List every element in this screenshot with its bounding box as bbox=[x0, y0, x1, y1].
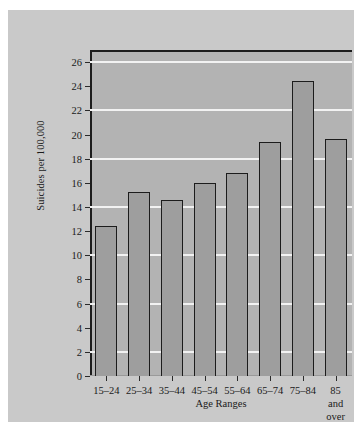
y-tick-mark bbox=[85, 62, 90, 63]
y-tick-label: 0 bbox=[60, 371, 82, 382]
bar bbox=[161, 200, 183, 376]
y-axis-spine bbox=[90, 50, 92, 376]
y-tick-label: 24 bbox=[60, 81, 82, 92]
x-tick-mark bbox=[237, 376, 238, 381]
x-tick-mark bbox=[106, 376, 107, 381]
y-tick-mark bbox=[85, 352, 90, 353]
y-tick-mark bbox=[85, 279, 90, 280]
y-tick-label: 6 bbox=[60, 298, 82, 309]
y-tick-label: 12 bbox=[60, 226, 82, 237]
y-tick-mark bbox=[85, 207, 90, 208]
y-tick-label: 8 bbox=[60, 274, 82, 285]
x-tick-label: 35–44 bbox=[159, 384, 185, 397]
x-tick-mark bbox=[270, 376, 271, 381]
y-tick-label: 16 bbox=[60, 177, 82, 188]
x-tick-mark bbox=[205, 376, 206, 381]
x-tick-label: 45–54 bbox=[192, 384, 218, 397]
bar bbox=[292, 81, 314, 376]
x-tick-label: 65–74 bbox=[257, 384, 283, 397]
x-tick-mark bbox=[139, 376, 140, 381]
y-tick-mark bbox=[85, 304, 90, 305]
y-tick-mark bbox=[85, 255, 90, 256]
y-tick-mark bbox=[85, 183, 90, 184]
figure-background: Suicides per 100,000 0246810121416182022… bbox=[8, 10, 354, 422]
y-axis-title: Suicides per 100,000 bbox=[35, 86, 46, 246]
y-tick-mark bbox=[85, 328, 90, 329]
y-tick-mark bbox=[85, 135, 90, 136]
y-tick-label: 10 bbox=[60, 250, 82, 261]
y-tick-mark bbox=[85, 159, 90, 160]
y-tick-mark bbox=[85, 86, 90, 87]
gridline bbox=[90, 61, 352, 63]
bar bbox=[194, 183, 216, 376]
y-tick-label: 18 bbox=[60, 153, 82, 164]
x-tick-mark bbox=[336, 376, 337, 381]
y-tick-label: 4 bbox=[60, 322, 82, 333]
x-tick-label: 75–84 bbox=[290, 384, 316, 397]
x-tick-mark bbox=[172, 376, 173, 381]
bar bbox=[95, 226, 117, 376]
x-axis-title: Age Ranges bbox=[90, 398, 352, 409]
bar bbox=[128, 192, 150, 376]
y-tick-mark bbox=[85, 110, 90, 111]
y-tick-label: 14 bbox=[60, 201, 82, 212]
plot-area: 02468101214161820222426 15–2425–3435–444… bbox=[90, 50, 352, 376]
x-tick-label: 25–34 bbox=[126, 384, 152, 397]
x-tick-label: 15–24 bbox=[93, 384, 119, 397]
y-tick-label: 26 bbox=[60, 57, 82, 68]
bar bbox=[325, 139, 347, 376]
x-tick-mark bbox=[303, 376, 304, 381]
y-tick-label: 20 bbox=[60, 129, 82, 140]
bar bbox=[259, 142, 281, 376]
bar bbox=[226, 173, 248, 376]
x-tick-label: 55–64 bbox=[224, 384, 250, 397]
y-tick-mark bbox=[85, 231, 90, 232]
y-tick-label: 22 bbox=[60, 105, 82, 116]
y-tick-label: 2 bbox=[60, 346, 82, 357]
plot-top-border bbox=[90, 50, 352, 52]
y-tick-mark bbox=[85, 376, 90, 377]
